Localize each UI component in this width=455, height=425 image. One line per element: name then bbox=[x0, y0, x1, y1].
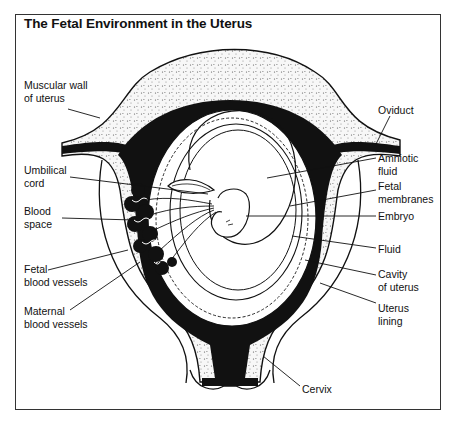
label-embryo: Embryo bbox=[378, 210, 414, 223]
label-maternal-blood-vessels: Maternal blood vessels bbox=[24, 305, 88, 331]
label-amniotic-fluid: Amniotic fluid bbox=[378, 152, 418, 178]
label-muscular-wall: Muscular wall of uterus bbox=[24, 79, 88, 105]
label-fetal-membranes: Fetal membranes bbox=[378, 180, 433, 206]
label-blood-space: Blood space bbox=[24, 205, 52, 231]
label-fetal-blood-vessels: Fetal blood vessels bbox=[24, 263, 88, 289]
label-uterus-lining: Uterus lining bbox=[378, 302, 409, 328]
label-cervix: Cervix bbox=[302, 383, 332, 396]
label-fluid: Fluid bbox=[378, 243, 401, 256]
label-oviduct: Oviduct bbox=[378, 104, 414, 117]
label-cavity-of-uterus: Cavity of uterus bbox=[378, 268, 419, 294]
label-umbilical-cord: Umbilical cord bbox=[24, 164, 67, 190]
